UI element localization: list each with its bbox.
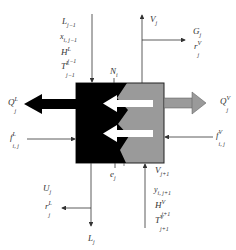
label-T-V-in: TVj+1	[155, 216, 169, 229]
label-x-in: xi, j−1	[60, 33, 77, 43]
label-r-L: rLj	[45, 202, 50, 215]
label-r-V: rVj	[194, 42, 199, 55]
label-T-L-in: TLj−1	[61, 62, 75, 75]
label-Q-V: QVj	[220, 97, 228, 110]
label-f-V: fVi, j	[216, 131, 225, 144]
label-L-in: Lj−1	[62, 17, 76, 28]
stage-box	[76, 83, 164, 163]
label-L-out: Lj	[88, 234, 95, 245]
label-f-L: fLi, j	[10, 133, 19, 146]
label-y-in: yi, j+1	[154, 186, 171, 196]
label-V-in: Vj+1	[155, 166, 169, 177]
vapor-heat-arrow	[164, 92, 206, 114]
label-V-out: Vj	[150, 15, 157, 26]
label-U: Uj	[43, 184, 51, 195]
label-H-V-in: HVj+1	[155, 201, 170, 214]
label-H-L-in: HLj−1	[61, 48, 76, 61]
label-Q-L: QLj	[8, 98, 16, 111]
label-e: ej	[110, 170, 116, 181]
liquid-heat-arrow	[24, 94, 77, 114]
label-G: Gj	[193, 27, 201, 38]
label-N: Ni	[110, 67, 118, 78]
